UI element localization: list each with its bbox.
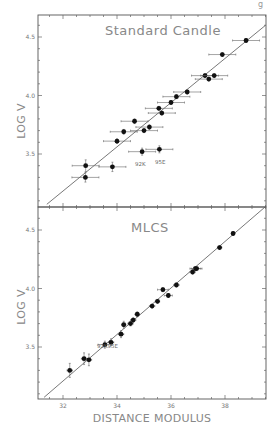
- data-point: [174, 283, 179, 288]
- x-tick-label: 34: [113, 402, 121, 409]
- y-tick-label: 3.5: [25, 150, 35, 157]
- data-point: [136, 125, 163, 130]
- data-point: [118, 331, 123, 338]
- x-tick-label: 36: [167, 402, 175, 409]
- data-point: [231, 231, 236, 236]
- y-tick-label: 3.5: [25, 343, 35, 350]
- annotation-92k-95e: 92K95E: [97, 343, 119, 349]
- top-panel-title: Standard Candle: [105, 23, 221, 38]
- data-point: [121, 119, 148, 124]
- data-point: [164, 293, 172, 298]
- data-point: [195, 77, 222, 82]
- data-point: [149, 304, 154, 309]
- bottom-y-axis-label: LOG V: [15, 289, 28, 325]
- panel-standard-candle: 3.54.04.5 Standard Candle LOG V 92K 95E: [15, 15, 266, 207]
- top-axis-ticks: 3.54.04.5: [25, 15, 266, 207]
- data-point: [72, 160, 99, 172]
- data-point: [163, 94, 190, 99]
- data-point: [233, 38, 260, 43]
- data-point: [99, 162, 126, 171]
- data-point: [145, 106, 172, 111]
- y-tick-label: 4.5: [25, 226, 35, 233]
- data-point: [135, 312, 140, 317]
- data-point: [155, 299, 160, 304]
- page-mark: g: [258, 0, 263, 9]
- data-point: [174, 90, 201, 95]
- data-point: [81, 353, 86, 365]
- y-tick-label: 4.0: [25, 92, 35, 99]
- x-tick-labels: 32343638: [59, 402, 229, 409]
- annotation-95e: 95E: [155, 159, 166, 165]
- bottom-axis-ticks: 3.54.04.5: [25, 207, 266, 399]
- data-point: [148, 111, 175, 116]
- data-point: [86, 354, 91, 366]
- panel-mlcs: 3.54.04.5 MLCS LOG V 92K95E 32343638 DIS…: [15, 207, 266, 425]
- y-tick-label: 4.5: [25, 33, 35, 40]
- data-point: [217, 245, 222, 250]
- data-point: [158, 100, 185, 105]
- x-tick-label: 38: [221, 402, 229, 409]
- chart: g 3.54.04.5 Standard Candle LOG V 92K 95…: [0, 0, 273, 428]
- bottom-panel-title: MLCS: [131, 220, 169, 235]
- x-tick-label: 32: [59, 402, 67, 409]
- annotation-92k: 92K: [135, 161, 146, 167]
- data-point: [67, 363, 72, 377]
- top-y-axis-label: LOG V: [15, 103, 28, 139]
- x-axis-label: DISTANCE MODULUS: [93, 412, 212, 425]
